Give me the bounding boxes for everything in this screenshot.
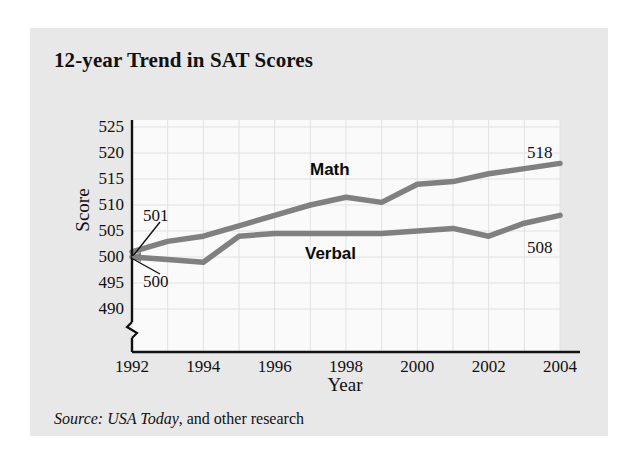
source-publication: Source: USA Today — [54, 410, 179, 427]
x-tick-label: 2004 — [530, 357, 590, 377]
y-tick-label: 515 — [80, 169, 124, 189]
series-label-verbal: Verbal — [305, 244, 356, 264]
y-tick-label: 510 — [80, 195, 124, 215]
series-label-math: Math — [310, 160, 350, 180]
y-tick-label: 520 — [80, 143, 124, 163]
x-axis-label: Year — [130, 374, 560, 396]
x-tick-label: 2002 — [459, 357, 519, 377]
y-tick-label: 500 — [80, 247, 124, 267]
datapoint-label-verbal-end: 508 — [527, 238, 553, 258]
source-suffix: , and other research — [179, 410, 304, 427]
datapoint-label-math-start: 501 — [143, 206, 169, 226]
y-tick-label: 495 — [80, 273, 124, 293]
x-tick-label: 1998 — [316, 357, 376, 377]
y-tick-label: 490 — [80, 299, 124, 319]
x-tick-label: 1996 — [245, 357, 305, 377]
datapoint-label-verbal-start: 500 — [143, 272, 169, 292]
chart-figure: 12-year Trend in SAT Scores — [0, 0, 638, 463]
y-tick-label: 505 — [80, 221, 124, 241]
datapoint-label-math-end: 518 — [527, 143, 553, 163]
source-note: Source: USA Today, and other research — [54, 410, 304, 428]
x-tick-label: 2000 — [387, 357, 447, 377]
y-tick-label: 525 — [80, 117, 124, 137]
x-tick-label: 1992 — [102, 357, 162, 377]
plot-area: Score Year 490495500505510515520525 1992… — [0, 0, 638, 463]
x-tick-label: 1994 — [173, 357, 233, 377]
